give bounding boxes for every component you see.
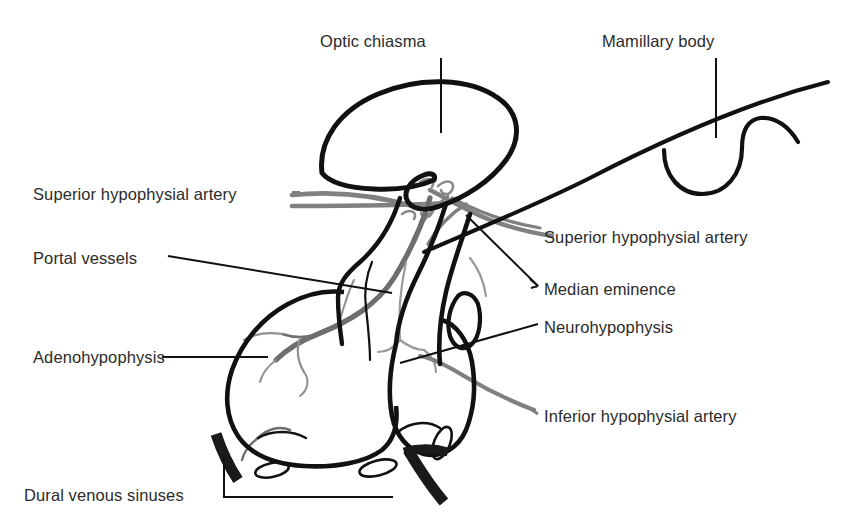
neurohypophysis-lower-fold <box>398 423 440 432</box>
sinus-oval-left <box>254 460 290 481</box>
label-optic-chiasma: Optic chiasma <box>320 33 426 50</box>
optic-chiasma-outline <box>322 82 517 209</box>
diagram-canvas: Optic chiasma Mamillary body Superior hy… <box>0 0 844 526</box>
label-adenohypophysis: Adenohypophysis <box>33 349 165 366</box>
portal-vessels-network <box>242 198 430 460</box>
label-superior-hypophysial-artery-right: Superior hypophysial artery <box>544 229 748 246</box>
pars-intermedia-inner-line <box>470 258 486 296</box>
label-neurohypophysis: Neurohypophysis <box>544 319 673 336</box>
label-portal-vessels: Portal vessels <box>33 250 137 267</box>
label-dural-venous-sinuses: Dural venous sinuses <box>24 487 184 504</box>
dural-venous-sinus-left-bar <box>216 434 238 480</box>
label-superior-hypophysial-artery-left: Superior hypophysial artery <box>33 186 237 203</box>
infundibulum-inner-wall <box>365 262 372 360</box>
hypothalamic-floor-line <box>424 82 828 252</box>
label-inferior-hypophysial-artery: Inferior hypophysial artery <box>544 408 737 425</box>
label-median-eminence: Median eminence <box>544 281 676 298</box>
label-mamillary-body: Mamillary body <box>602 33 714 50</box>
adenohypophysis-outline <box>227 292 396 467</box>
leader-inferior-hypophysial-artery <box>532 410 538 414</box>
sinus-oval-right <box>428 424 456 462</box>
dural-venous-sinus-right-branch <box>404 449 448 452</box>
mamillary-body-outline <box>664 118 798 194</box>
neurohypophysis-outline <box>390 320 474 455</box>
inferior-hypophysial-artery-vessel <box>420 356 534 410</box>
